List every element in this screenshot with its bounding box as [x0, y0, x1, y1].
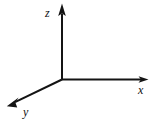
x-axis-label: x	[138, 84, 143, 96]
z-axis-label: z	[45, 7, 50, 19]
coordinate-axes-figure: z x y	[0, 0, 154, 123]
y-axis-line	[15, 80, 62, 103]
y-axis-label: y	[23, 106, 28, 118]
y-axis-arrowhead	[7, 98, 19, 108]
